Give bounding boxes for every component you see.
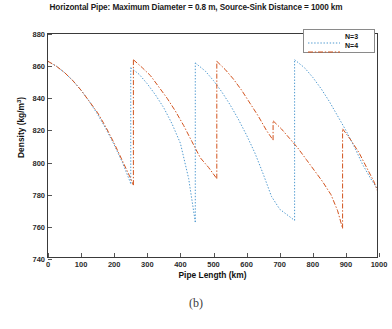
series-segment xyxy=(48,61,131,183)
x-tick-label: 600 xyxy=(240,260,253,269)
chart-title: Horizontal Pipe: Maximum Diameter = 0.8 … xyxy=(0,3,392,12)
x-tick-mark xyxy=(247,253,248,257)
legend: N=3N=4 xyxy=(303,29,375,53)
x-tick-mark xyxy=(180,253,181,257)
series-canvas xyxy=(48,34,377,257)
x-tick-mark xyxy=(379,253,380,257)
y-tick-label: 840 xyxy=(32,94,45,103)
y-axis-label-text: Density (kg/m xyxy=(16,103,26,158)
series-segment xyxy=(217,61,273,140)
y-tick-mark xyxy=(48,195,52,196)
y-tick-label: 800 xyxy=(32,158,45,167)
x-tick-mark xyxy=(346,253,347,257)
figure-caption: (b) xyxy=(0,296,392,311)
x-tick-label: 800 xyxy=(307,260,320,269)
y-axis-label-tail: ) xyxy=(16,97,26,100)
y-tick-label: 860 xyxy=(32,62,45,71)
y-tick-mark xyxy=(48,130,52,131)
y-tick-mark xyxy=(48,98,52,99)
x-axis-label: Pipe Length (km) xyxy=(47,270,378,280)
legend-item-N3[interactable]: N=3 xyxy=(307,32,371,41)
legend-item-N4[interactable]: N=4 xyxy=(307,41,371,50)
y-tick-label: 820 xyxy=(32,126,45,135)
x-tick-label: 900 xyxy=(340,260,353,269)
x-tick-mark xyxy=(48,253,49,257)
series-segment xyxy=(343,129,377,195)
x-tick-mark xyxy=(81,253,82,257)
figure-panel: Horizontal Pipe: Maximum Diameter = 0.8 … xyxy=(0,0,392,329)
series-segment xyxy=(48,61,133,185)
y-tick-mark xyxy=(48,163,52,164)
y-tick-label: 760 xyxy=(32,222,45,231)
x-tick-label: 500 xyxy=(207,260,220,269)
x-tick-mark xyxy=(114,253,115,257)
series-segment xyxy=(273,121,343,229)
plot-area: 7407607808008208408608800100200300400500… xyxy=(47,33,378,258)
x-tick-label: 100 xyxy=(75,260,88,269)
series-segment xyxy=(295,60,377,192)
y-tick-mark xyxy=(48,66,52,67)
legend-swatch xyxy=(307,42,341,50)
x-tick-label: 1000 xyxy=(371,260,388,269)
x-tick-label: 400 xyxy=(174,260,187,269)
legend-label: N=4 xyxy=(345,42,358,49)
x-tick-mark xyxy=(147,253,148,257)
series-N4 xyxy=(48,60,377,229)
y-tick-mark xyxy=(48,227,52,228)
series-segment xyxy=(131,68,196,222)
legend-swatch xyxy=(307,33,341,41)
series-segment xyxy=(133,60,216,179)
series-segment xyxy=(195,63,294,221)
y-axis-label: Density (kg/m3) xyxy=(16,62,27,192)
y-tick-mark xyxy=(48,34,52,35)
series-N3 xyxy=(48,60,377,222)
x-tick-mark xyxy=(214,253,215,257)
x-tick-label: 300 xyxy=(141,260,154,269)
x-tick-label: 700 xyxy=(273,260,286,269)
legend-label: N=3 xyxy=(345,33,358,40)
x-tick-label: 200 xyxy=(108,260,121,269)
y-axis-label-exponent: 3 xyxy=(16,100,22,103)
y-tick-label: 780 xyxy=(32,190,45,199)
y-tick-label: 880 xyxy=(32,30,45,39)
y-tick-label: 740 xyxy=(32,255,45,264)
x-tick-label: 0 xyxy=(46,260,50,269)
x-tick-mark xyxy=(280,253,281,257)
x-tick-mark xyxy=(313,253,314,257)
plot-inner xyxy=(48,34,377,257)
